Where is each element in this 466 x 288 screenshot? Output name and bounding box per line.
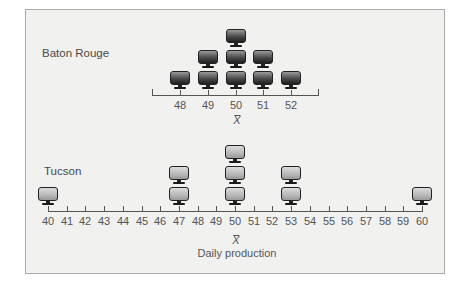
tucson-label: Tucson	[44, 165, 81, 177]
monitor-icon	[281, 187, 301, 206]
tick-label: 43	[98, 215, 110, 227]
monitor-icon	[225, 145, 245, 164]
tick-label: 60	[416, 215, 428, 227]
tick-label: 50	[229, 215, 241, 227]
tick-label: 49	[202, 99, 214, 111]
monitor-icon	[253, 71, 273, 90]
monitor-icon	[281, 71, 301, 90]
tick-label: 57	[360, 215, 372, 227]
baton-rouge-mean-symbol: X	[233, 114, 240, 126]
axis-tick	[179, 206, 180, 211]
axis-tick	[272, 206, 273, 211]
tick-label: 45	[136, 215, 148, 227]
tick-label: 59	[397, 215, 409, 227]
tick-label: 51	[248, 215, 260, 227]
tick-label: 58	[379, 215, 391, 227]
monitor-icon	[226, 71, 246, 90]
tucson-axis	[48, 211, 423, 212]
tick-label: 48	[192, 215, 204, 227]
x-axis-title: Daily production	[198, 247, 277, 259]
tick-label: 42	[79, 215, 91, 227]
axis-tick	[422, 206, 423, 211]
axis-tick	[142, 206, 143, 211]
axis-tick	[235, 206, 236, 211]
tick-label: 56	[341, 215, 353, 227]
tick-label: 46	[154, 215, 166, 227]
monitor-icon	[198, 71, 218, 90]
axis-tick	[104, 206, 105, 211]
axis-tick	[403, 206, 404, 211]
axis-tick	[310, 206, 311, 211]
tick-label: 40	[42, 215, 54, 227]
tick-label: 52	[266, 215, 278, 227]
tick-label: 51	[257, 99, 269, 111]
tick-label: 48	[174, 99, 186, 111]
monitor-icon	[198, 50, 218, 69]
monitor-icon	[226, 29, 246, 48]
axis-tick	[48, 206, 49, 211]
tick-label: 41	[61, 215, 73, 227]
axis-tick	[180, 90, 181, 95]
tick-label: 53	[285, 215, 297, 227]
monitor-icon	[169, 166, 189, 185]
axis-tick	[385, 206, 386, 211]
tick-label: 49	[210, 215, 222, 227]
axis-tick	[160, 206, 161, 211]
axis-tick	[216, 206, 217, 211]
axis-tick	[263, 90, 264, 95]
baton-rouge-label: Baton Rouge	[42, 47, 109, 59]
tick-label: 47	[173, 215, 185, 227]
tick-label: 52	[285, 99, 297, 111]
monitor-icon	[169, 187, 189, 206]
axis-tick	[291, 206, 292, 211]
monitor-icon	[225, 187, 245, 206]
monitor-icon	[253, 50, 273, 69]
axis-tick	[329, 206, 330, 211]
tick-label: 50	[230, 99, 242, 111]
axis-tick	[67, 206, 68, 211]
axis-end-tick	[152, 89, 153, 95]
axis-end-tick	[318, 89, 319, 95]
axis-tick	[236, 90, 237, 95]
monitor-icon	[170, 71, 190, 90]
tick-label: 55	[323, 215, 335, 227]
axis-tick	[85, 206, 86, 211]
monitor-icon	[38, 187, 58, 206]
axis-tick	[347, 206, 348, 211]
axis-tick	[291, 90, 292, 95]
axis-tick	[123, 206, 124, 211]
baton-rouge-axis	[152, 95, 319, 96]
monitor-icon	[226, 50, 246, 69]
monitor-icon	[412, 187, 432, 206]
tucson-mean-symbol: X	[232, 234, 239, 246]
monitor-icon	[281, 166, 301, 185]
tick-label: 54	[304, 215, 316, 227]
axis-tick	[208, 90, 209, 95]
axis-tick	[254, 206, 255, 211]
axis-tick	[198, 206, 199, 211]
axis-tick	[366, 206, 367, 211]
monitor-icon	[225, 166, 245, 185]
tick-label: 44	[117, 215, 129, 227]
